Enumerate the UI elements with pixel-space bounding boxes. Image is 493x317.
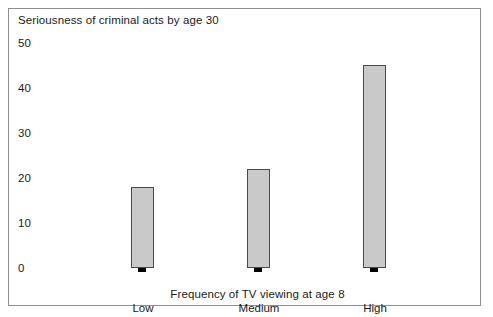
x-tick-label-medium: Medium xyxy=(239,302,280,314)
chart-title: Seriousness of criminal acts by age 30 xyxy=(18,14,219,26)
x-tick-label-high: High xyxy=(363,302,387,314)
plot-area: 0 10 20 30 40 50 Low Medium High xyxy=(18,30,473,280)
bar-low-face xyxy=(131,187,154,268)
y-tick-label-10: 10 xyxy=(18,217,44,229)
bar-medium-face xyxy=(247,169,270,268)
y-tick-label-40: 40 xyxy=(18,82,44,94)
x-tick-label-low: Low xyxy=(132,302,153,314)
bar-high-face xyxy=(363,65,386,268)
y-tick-label-0: 0 xyxy=(18,262,44,274)
y-tick-label-50: 50 xyxy=(18,37,44,49)
x-axis-title: Frequency of TV viewing at age 8 xyxy=(0,288,493,300)
chart-figure: Seriousness of criminal acts by age 30 0… xyxy=(0,0,493,317)
y-tick-label-30: 30 xyxy=(18,127,44,139)
y-tick-label-20: 20 xyxy=(18,172,44,184)
